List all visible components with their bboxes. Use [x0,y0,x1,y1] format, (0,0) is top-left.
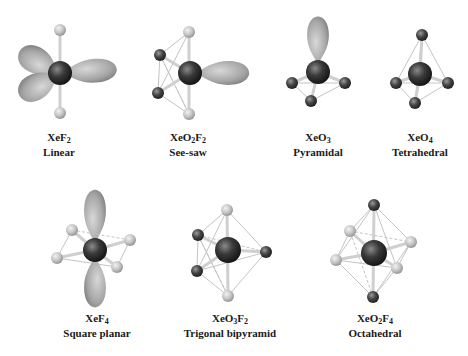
formula: XeO4 [392,130,448,145]
fluorine-atom [183,108,195,120]
molecular-geometry-diagram [0,0,468,356]
molecule-xeo2f2 [152,26,249,120]
oxygen-atom [409,97,421,109]
label-xeo4: XeO4 Tetrahedral [392,130,448,160]
molecule-xef4 [51,190,136,308]
fluorine-atom [344,225,356,237]
oxygen-atom [367,291,379,303]
xenon-atom [306,60,330,84]
geometry-name: Square planar [63,326,130,341]
formula: XeO3F2 [184,311,276,326]
oxygen-atom [416,29,428,41]
molecule-xeo2f4 [330,199,417,303]
xenon-atom [408,62,432,86]
formula: XeF2 [43,130,75,145]
fluorine-atom [221,204,233,216]
geometry-name: Octahedral [348,326,401,341]
oxygen-atom [305,95,317,107]
fluorine-atom [54,107,66,119]
geometry-name: Pyramidal [293,145,343,160]
geometry-name: Trigonal bipyramid [184,326,276,341]
geometry-name: See-saw [169,145,206,160]
xenon-atom [83,238,107,262]
oxygen-atom [260,246,272,258]
oxygen-atom [154,49,166,61]
label-xeo3: XeO3 Pyramidal [293,130,343,160]
oxygen-atom [368,199,380,211]
fluorine-atom [405,236,417,248]
fluorine-atom [222,290,234,302]
fluorine-atom [111,261,123,273]
fluorine-atom [391,262,403,274]
xenon-atom [215,237,241,263]
molecule-xeo3 [286,16,351,107]
lone-pair-lobe [196,61,249,85]
oxygen-atom [192,229,204,241]
oxygen-atom [286,77,298,89]
formula: XeO3 [293,130,343,145]
fluorine-atom [51,252,63,264]
fluorine-atom [183,26,195,38]
label-xeo2f2: XeO2F2 See-saw [169,130,206,160]
fluorine-atom [124,234,136,246]
formula: XeO2F4 [348,311,401,326]
oxygen-atom [191,265,203,277]
molecule-xeo3f2 [191,204,272,302]
lone-pair-lobe [307,16,329,64]
label-xef2: XeF2 Linear [43,130,75,160]
geometry-name: Tetrahedral [392,145,448,160]
fluorine-atom [66,224,78,236]
xenon-atom [48,61,72,85]
fluorine-atom [330,254,342,266]
xenon-atom [361,240,387,266]
label-xeo2f4: XeO2F4 Octahedral [348,311,401,341]
label-xeo3f2: XeO3F2 Trigonal bipyramid [184,311,276,341]
label-xef4: XeF4 Square planar [63,311,130,341]
oxygen-atom [442,77,454,89]
oxygen-atom [390,77,402,89]
oxygen-atom [152,87,164,99]
fluorine-atom [54,24,66,36]
molecule-xeo4 [390,29,454,109]
molecule-xef2 [13,24,117,119]
formula: XeF4 [63,311,130,326]
geometry-name: Linear [43,145,75,160]
xenon-atom [178,61,202,85]
formula: XeO2F2 [169,130,206,145]
oxygen-atom [339,77,351,89]
